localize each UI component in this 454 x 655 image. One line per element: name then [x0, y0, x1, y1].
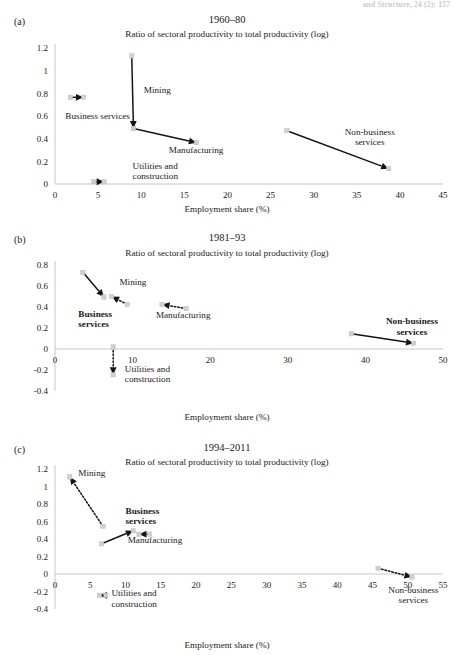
data-point-start — [131, 126, 135, 130]
x-tick-label: 15 — [180, 190, 190, 200]
arrow-shaft-business-services — [102, 534, 127, 544]
data-point-start — [81, 270, 85, 274]
y-tick-label: -0.2 — [34, 365, 48, 375]
data-point-start — [376, 566, 380, 570]
y-tick-label: 0.6 — [37, 111, 49, 121]
y-tick-label: -0.4 — [34, 604, 49, 614]
data-point-start — [101, 524, 105, 528]
sector-label-nonbusiness: Non-business — [388, 585, 438, 595]
y-tick-label: -0.4 — [34, 386, 49, 396]
arrow-shaft-manufacturing — [169, 306, 186, 309]
sector-label-mining: Mining — [119, 277, 146, 287]
x-tick-label: 35 — [352, 190, 362, 200]
y-tick-label: 1 — [44, 66, 49, 76]
sector-label-utilities: construction — [125, 374, 171, 384]
data-point-start — [111, 345, 115, 349]
sector-label-nonbusiness: services — [399, 595, 429, 605]
panel-c-plot: -0.4-0.200.20.40.60.811.2051015202530354… — [0, 442, 454, 642]
y-tick-label: 0.2 — [37, 323, 48, 333]
panel-a-xlabel: Employment share (%) — [0, 204, 454, 214]
arrow-shaft-mining — [74, 483, 103, 526]
y-tick-label: -0.2 — [34, 587, 48, 597]
y-tick-label: 0 — [44, 569, 49, 579]
arrow-shaft-mining — [132, 56, 134, 121]
figure-panel-c: (c) 1994–2011 Ratio of sectoral producti… — [0, 442, 454, 655]
sector-label-business_services: Business services — [65, 111, 130, 121]
x-tick-label: 40 — [395, 190, 405, 200]
x-tick-label: 40 — [333, 580, 343, 590]
data-point-start — [92, 180, 96, 184]
y-tick-label: 1 — [44, 482, 49, 492]
data-point-end — [410, 575, 414, 579]
x-tick-label: 45 — [368, 580, 378, 590]
y-tick-label: 0.6 — [37, 281, 49, 291]
x-tick-label: 55 — [439, 580, 449, 590]
sector-label-business_services2: Business — [126, 506, 160, 516]
x-tick-label: 25 — [227, 580, 237, 590]
data-point-start — [349, 332, 353, 336]
data-point-end — [81, 95, 85, 99]
y-tick-label: 0 — [44, 179, 49, 189]
x-tick-label: 30 — [262, 580, 272, 590]
y-tick-label: 0.8 — [37, 499, 49, 509]
sector-label-manufacturing: Manufacturing — [128, 535, 183, 545]
data-point-end — [111, 373, 115, 377]
x-tick-label: 10 — [137, 190, 147, 200]
panel-b-xlabel: Employment share (%) — [0, 412, 454, 422]
sector-label-business_services2: services — [78, 319, 109, 329]
data-point-start — [99, 542, 103, 546]
y-tick-label: 0.2 — [37, 157, 48, 167]
data-point-end — [411, 341, 415, 345]
x-tick-label: 50 — [439, 355, 449, 365]
running-head: and Structure, 24 (2): 157 — [230, 0, 450, 9]
y-tick-label: 0.6 — [37, 517, 49, 527]
data-point-end — [131, 528, 135, 532]
x-tick-label: 30 — [283, 355, 293, 365]
sector-label-mining: Mining — [144, 85, 171, 95]
x-tick-label: 25 — [266, 190, 276, 200]
data-point-start — [104, 593, 108, 597]
sector-label-utilities: Utilities and — [125, 364, 171, 374]
sector-label-utilities: Utilities and — [111, 588, 157, 598]
data-point-end — [386, 167, 390, 171]
y-tick-label: 0.4 — [37, 302, 49, 312]
x-tick-label: 30 — [309, 190, 319, 200]
x-tick-label: 5 — [96, 190, 101, 200]
x-tick-label: 20 — [192, 580, 202, 590]
data-point-end — [102, 180, 106, 184]
y-tick-label: 0.8 — [37, 89, 49, 99]
y-tick-label: 1.2 — [37, 43, 48, 53]
panel-a-plot: 00.20.40.60.811.2051015202530354045Minin… — [0, 14, 454, 214]
arrow-shaft-manufacturing — [133, 128, 189, 141]
y-tick-label: 0.4 — [37, 534, 49, 544]
data-point-start — [68, 95, 72, 99]
sector-label-business_services2: Business — [78, 309, 112, 319]
data-point-end — [102, 295, 106, 299]
x-tick-label: 15 — [156, 580, 166, 590]
x-tick-label: 0 — [53, 355, 58, 365]
x-tick-label: 20 — [223, 190, 233, 200]
sector-label-manufacturing: Manufacturing — [169, 145, 224, 155]
sector-label-manufacturing: Manufacturing — [156, 310, 211, 320]
arrow-shaft-business-services — [83, 272, 99, 291]
sector-label-utilities: Utilities and — [133, 161, 179, 171]
x-tick-label: 35 — [297, 580, 307, 590]
y-tick-label: 0.2 — [37, 552, 48, 562]
data-point-end — [109, 294, 113, 298]
y-tick-label: 0.8 — [37, 260, 49, 270]
y-tick-label: 0.4 — [37, 134, 49, 144]
data-point-end — [68, 475, 72, 479]
panel-c-xlabel: Employment share (%) — [0, 640, 454, 650]
sector-label-business_services2: services — [126, 516, 157, 526]
x-tick-label: 0 — [53, 580, 58, 590]
x-tick-label: 20 — [206, 355, 216, 365]
sector-label-mining: Mining — [78, 468, 105, 478]
y-tick-label: 1.2 — [37, 464, 48, 474]
sector-label-nonbusiness: Non-business — [386, 316, 439, 326]
sector-label-utilities: construction — [111, 599, 157, 609]
figure-panel-a: (a) 1960–80 Ratio of sectoral productivi… — [0, 14, 454, 230]
x-tick-label: 0 — [53, 190, 58, 200]
data-point-start — [285, 129, 289, 133]
sector-label-utilities: construction — [133, 171, 179, 181]
sector-label-nonbusiness: services — [397, 327, 428, 337]
